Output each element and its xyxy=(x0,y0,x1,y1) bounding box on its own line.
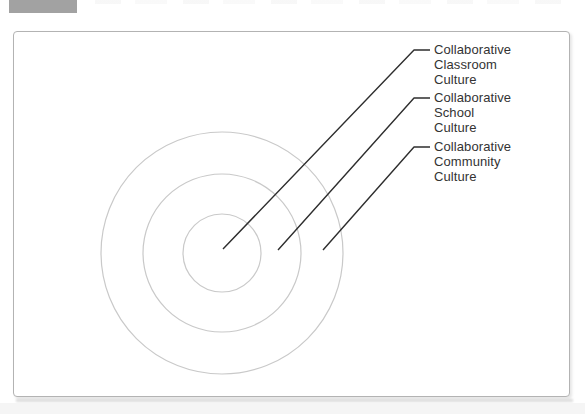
label-line: Collaborative xyxy=(434,139,544,154)
page-margin xyxy=(0,403,585,414)
label-collaborative-school-culture: Collaborative School Culture xyxy=(434,90,544,135)
label-line: Culture xyxy=(434,120,544,135)
label-line: Community xyxy=(434,154,544,169)
label-line: Collaborative xyxy=(434,42,544,57)
middle-ring-circle xyxy=(143,174,301,332)
outer-ring-circle xyxy=(101,132,343,374)
label-collaborative-classroom-culture: Collaborative Classroom Culture xyxy=(434,42,544,87)
scan-shadow xyxy=(16,399,573,402)
leader-line-classroom xyxy=(223,50,430,249)
label-line: Collaborative xyxy=(434,90,544,105)
page: Collaborative Classroom Culture Collabor… xyxy=(0,0,585,414)
label-line: Classroom xyxy=(434,57,544,72)
inner-ring-circle xyxy=(183,214,261,292)
leader-line-school xyxy=(278,98,430,250)
label-line: Culture xyxy=(434,169,544,184)
leader-line-community xyxy=(323,147,430,250)
label-line: School xyxy=(434,105,544,120)
label-collaborative-community-culture: Collaborative Community Culture xyxy=(434,139,544,184)
label-line: Culture xyxy=(434,72,544,87)
